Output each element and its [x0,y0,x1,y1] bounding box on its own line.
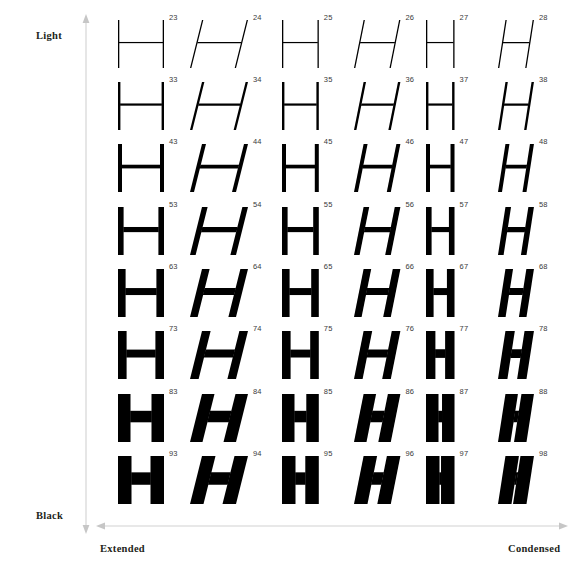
glyph-h-84 [190,394,250,442]
cell-number-76: 76 [405,325,414,333]
specimen-row: 939495969798 [118,450,578,512]
glyph-h-23 [118,20,166,68]
cell-number-54: 54 [253,201,262,209]
glyph-h-74 [190,331,250,379]
cell-number-85: 85 [324,388,333,396]
glyph-h-35 [282,82,321,130]
specimen-row: 535455565758 [118,201,578,263]
glyph-h-46 [354,144,402,192]
cell-number-65: 65 [324,263,333,271]
weight-axis-bottom-label: Black [36,510,63,521]
cell-number-36: 36 [405,76,414,84]
cell-number-56: 56 [405,201,414,209]
glyph-h-66 [354,269,402,317]
cell-number-47: 47 [460,138,469,146]
glyph-h-83 [118,394,166,442]
cell-number-53: 53 [169,201,178,209]
specimen-row: 636465666768 [118,263,578,325]
glyph-h-56 [354,207,402,255]
cell-number-28: 28 [539,14,548,22]
cell-number-45: 45 [324,138,333,146]
cell-number-35: 35 [324,76,333,84]
glyph-h-27 [426,20,457,68]
glyph-h-88 [498,394,536,442]
specimen-row: 333435363738 [118,76,578,138]
cell-number-26: 26 [405,14,414,22]
cell-number-83: 83 [169,388,178,396]
specimen-canvas: Light Black Extended Condensed 232425262… [0,0,584,577]
cell-number-24: 24 [253,14,262,22]
cell-number-57: 57 [460,201,469,209]
specimen-row: 232425262728 [118,14,578,76]
cell-number-78: 78 [539,325,548,333]
glyph-h-96 [354,456,402,504]
specimen-row: 838485868788 [118,388,578,450]
specimen-row: 434445464748 [118,138,578,200]
glyph-h-47 [426,144,457,192]
cell-number-94: 94 [253,450,262,458]
glyph-h-63 [118,269,166,317]
glyph-h-45 [282,144,321,192]
cell-number-58: 58 [539,201,548,209]
cell-number-66: 66 [405,263,414,271]
cell-number-87: 87 [460,388,469,396]
glyph-h-65 [282,269,321,317]
cell-number-73: 73 [169,325,178,333]
glyph-h-87 [426,394,457,442]
glyph-h-28 [498,20,536,68]
glyph-h-48 [498,144,536,192]
cell-number-38: 38 [539,76,548,84]
cell-number-48: 48 [539,138,548,146]
glyph-h-95 [282,456,321,504]
cell-number-96: 96 [405,450,414,458]
glyph-h-86 [354,394,402,442]
glyph-h-67 [426,269,457,317]
cell-number-88: 88 [539,388,548,396]
cell-number-46: 46 [405,138,414,146]
cell-number-27: 27 [460,14,469,22]
glyph-h-38 [498,82,536,130]
cell-number-77: 77 [460,325,469,333]
cell-number-33: 33 [169,76,178,84]
glyph-h-85 [282,394,321,442]
cell-number-93: 93 [169,450,178,458]
glyph-h-68 [498,269,536,317]
glyph-h-33 [118,82,166,130]
glyph-h-77 [426,331,457,379]
glyph-h-76 [354,331,402,379]
cell-number-55: 55 [324,201,333,209]
glyph-h-73 [118,331,166,379]
weight-axis-top-label: Light [36,30,62,41]
cell-number-37: 37 [460,76,469,84]
glyph-h-25 [282,20,321,68]
glyph-h-53 [118,207,166,255]
glyph-h-43 [118,144,166,192]
width-axis-left-label: Extended [100,543,145,554]
specimen-row: 737475767778 [118,325,578,387]
cell-number-23: 23 [169,14,178,22]
glyph-h-64 [190,269,250,317]
cell-number-43: 43 [169,138,178,146]
cell-number-86: 86 [405,388,414,396]
glyph-h-34 [190,82,250,130]
glyph-h-36 [354,82,402,130]
glyph-h-78 [498,331,536,379]
weight-axis-arrow-icon [78,14,94,534]
glyph-h-37 [426,82,457,130]
cell-number-25: 25 [324,14,333,22]
glyph-h-75 [282,331,321,379]
glyph-h-26 [354,20,402,68]
glyph-h-98 [498,456,536,504]
width-axis-arrow-icon [96,518,568,534]
cell-number-98: 98 [539,450,548,458]
cell-number-74: 74 [253,325,262,333]
glyph-h-57 [426,207,457,255]
glyph-h-58 [498,207,536,255]
glyph-h-55 [282,207,321,255]
cell-number-63: 63 [169,263,178,271]
cell-number-97: 97 [460,450,469,458]
glyph-h-94 [190,456,250,504]
glyph-h-24 [190,20,250,68]
cell-number-64: 64 [253,263,262,271]
glyph-h-54 [190,207,250,255]
